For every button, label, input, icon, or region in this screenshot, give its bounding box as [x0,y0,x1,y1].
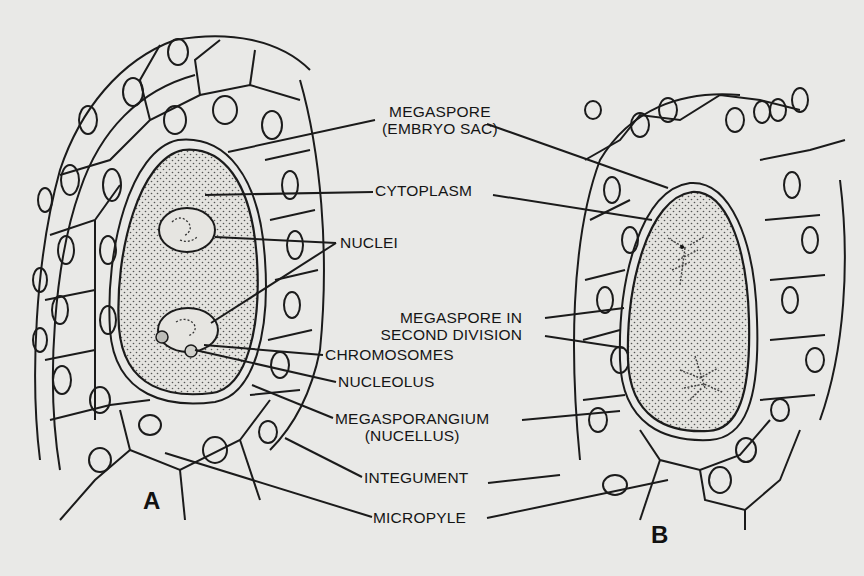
label-chromosomes: CHROMOSOMES [325,346,454,363]
megaspore-diagram-drawing [0,0,864,576]
label-megaspore-second-division: MEGASPORE IN SECOND DIVISION [380,309,522,343]
label-megasporangium-line2: (NUCELLUS) [335,427,489,444]
label-nuclei: NUCLEI [340,234,398,251]
label-megasporangium: MEGASPORANGIUM (NUCELLUS) [335,410,489,444]
label-megaspore-line2: (EMBRYO SAC) [382,120,498,137]
label-nucleolus: NUCLEOLUS [338,373,435,390]
diagram-figure: MEGASPORE (EMBRYO SAC) CYTOPLASM NUCLEI … [0,0,864,576]
label-megaspore-division-line1: MEGASPORE IN [380,309,522,326]
label-megaspore-division-line2: SECOND DIVISION [380,326,522,343]
label-cytoplasm: CYTOPLASM [375,182,472,199]
panel-a-embryo-sac [109,140,266,404]
label-megaspore: MEGASPORE (EMBRYO SAC) [382,103,498,137]
label-megaspore-line1: MEGASPORE [382,103,498,120]
label-megasporangium-line1: MEGASPORANGIUM [335,410,489,427]
panel-letter-a: A [143,487,160,515]
label-integument: INTEGUMENT [364,469,468,486]
label-micropyle: MICROPYLE [373,509,466,526]
panel-letter-b: B [651,521,668,549]
panel-b-megaspore [620,183,757,440]
